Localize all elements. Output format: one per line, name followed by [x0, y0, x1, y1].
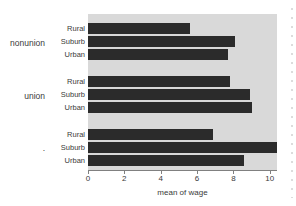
x-tick-label: 10 [265, 174, 274, 183]
category-label-3-1: Rural [4, 129, 88, 140]
category-label-1-3: Urban [4, 49, 88, 60]
x-tick-label: 0 [86, 174, 90, 183]
x-tick-label: 4 [158, 174, 162, 183]
bar-3-2 [88, 142, 277, 153]
bar-2-2 [88, 89, 250, 100]
bar-3-1 [88, 129, 213, 140]
category-label-1-2: Suburb [4, 36, 88, 47]
category-label-3-2: Suburb [4, 142, 88, 153]
bar-3-3 [88, 155, 244, 166]
x-axis-line [88, 170, 277, 171]
category-label-1-1: Rural [4, 23, 88, 34]
bar-1-1 [88, 23, 190, 34]
scan-artifact [291, 8, 293, 198]
x-tick-label: 2 [122, 174, 126, 183]
category-label-3-3: Urban [4, 155, 88, 166]
x-tick-label: 6 [195, 174, 199, 183]
category-label-2-1: Rural [4, 76, 88, 87]
category-label-2-3: Urban [4, 102, 88, 113]
x-axis-title: mean of wage [88, 188, 277, 197]
bar-1-2 [88, 36, 235, 47]
bar-2-3 [88, 102, 252, 113]
bar-1-3 [88, 49, 228, 60]
bar-2-1 [88, 76, 230, 87]
bar-chart: nonunion Rural Suburb Urban union Rural … [0, 0, 296, 206]
x-tick-label: 8 [231, 174, 235, 183]
category-label-2-2: Suburb [4, 89, 88, 100]
